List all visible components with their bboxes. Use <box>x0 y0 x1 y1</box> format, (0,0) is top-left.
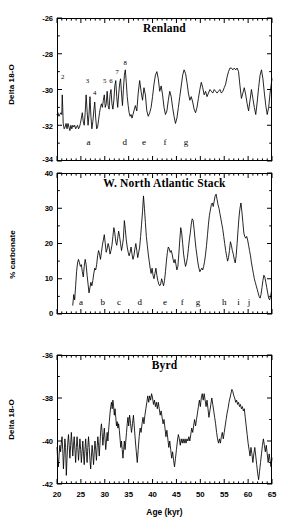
annotation-letter-d: d <box>135 297 145 307</box>
x-tick-40: 40 <box>141 490 165 499</box>
annotation-letter-b: b <box>98 297 108 307</box>
x-tick-25: 25 <box>69 490 93 499</box>
panel-byrd: Delta 18-O -36 -38 -40 -42 Byrd 20253035… <box>0 340 288 529</box>
chart-wnas <box>0 168 288 340</box>
chart-byrd <box>0 340 288 529</box>
panel-wnas: % carbonate 40 30 20 10 0 W. North Atlan… <box>0 168 288 340</box>
annotation-number-3: 3 <box>83 77 93 84</box>
annotation-letter-a: a <box>84 137 94 147</box>
x-tick-35: 35 <box>117 490 141 499</box>
x-tick-60: 60 <box>236 490 260 499</box>
annotation-letter-j: j <box>244 297 254 307</box>
annotation-letter-g: g <box>193 297 203 307</box>
x-tick-45: 45 <box>164 490 188 499</box>
annotation-letter-h: h <box>219 297 229 307</box>
figure-container: Delta 18-O -26 -28 -30 -32 -34 Renland 2… <box>0 0 288 529</box>
x-tick-65: 65 <box>260 490 284 499</box>
annotation-letter-e: e <box>139 137 149 147</box>
annotation-letter-e: e <box>160 297 170 307</box>
data-curve-byrd <box>57 389 272 479</box>
annotation-letter-f: f <box>160 137 170 147</box>
annotation-letter-g: g <box>181 137 191 147</box>
x-tick-55: 55 <box>212 490 236 499</box>
x-tick-20: 20 <box>45 490 69 499</box>
annotation-letter-i: i <box>234 297 244 307</box>
x-tick-50: 50 <box>188 490 212 499</box>
panel-renland: Delta 18-O -26 -28 -30 -32 -34 Renland 2… <box>0 0 288 168</box>
data-curve-wnas <box>73 194 272 305</box>
x-axis-title: Age (kyr) <box>57 507 272 517</box>
annotation-number-2: 2 <box>58 73 68 80</box>
annotation-number-6: 6 <box>106 77 116 84</box>
annotation-letter-c: c <box>114 297 124 307</box>
axis-ticks-byrd <box>57 355 272 484</box>
annotation-letter-a: a <box>76 297 86 307</box>
annotation-number-4: 4 <box>90 89 100 96</box>
annotation-letter-d: d <box>120 137 130 147</box>
annotation-number-7: 7 <box>112 68 122 75</box>
annotation-letter-f: f <box>177 297 187 307</box>
annotation-number-8: 8 <box>120 59 130 66</box>
x-tick-30: 30 <box>93 490 117 499</box>
